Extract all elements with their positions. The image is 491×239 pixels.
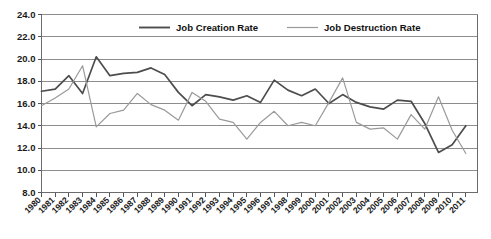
- y-axis-tick-label: 20.0: [17, 53, 36, 64]
- y-axis-tick-label: 22.0: [17, 31, 36, 42]
- series-line-job-creation-rate: [42, 57, 466, 153]
- legend-label-job-destruction-rate: Job Destruction Rate: [324, 22, 421, 33]
- series-line-job-destruction-rate: [42, 66, 466, 154]
- y-axis-tick-label: 18.0: [17, 75, 36, 86]
- chart-container: 24.022.020.018.016.014.012.010.08.0 1980…: [0, 0, 491, 239]
- line-chart: 24.022.020.018.016.014.012.010.08.0 1980…: [0, 0, 491, 239]
- legend-label-job-creation-rate: Job Creation Rate: [176, 22, 258, 33]
- chart-legend: Job Creation RateJob Destruction Rate: [139, 22, 421, 33]
- y-axis-tick-label: 16.0: [17, 98, 36, 109]
- y-axis-tick-label: 24.0: [17, 9, 36, 20]
- data-series: [42, 57, 466, 154]
- y-axis-tick-label: 10.0: [17, 164, 36, 175]
- x-axis: 1980198119821983198419851986198719881989…: [22, 193, 477, 216]
- y-axis-tick-label: 14.0: [17, 120, 36, 131]
- y-axis-tick-label: 12.0: [17, 142, 36, 153]
- y-axis: 24.022.020.018.016.014.012.010.08.0: [17, 9, 42, 198]
- x-axis-tick-label: 2011: [447, 195, 467, 215]
